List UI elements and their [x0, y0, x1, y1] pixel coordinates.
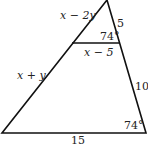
label-lower-left-side: x + y: [17, 69, 46, 82]
label-base: 15: [71, 134, 85, 146]
label-upper-right-side: 5: [117, 17, 124, 30]
label-bottom-angle: 74°: [124, 119, 144, 132]
label-upper-left-side: x − 2y: [60, 9, 96, 22]
triangle-diagram: x − 2y 5 74° x − 5 x + y 10 74° 15: [0, 0, 148, 146]
label-top-angle: 74°: [100, 30, 120, 43]
label-lower-right-side: 10: [135, 80, 148, 93]
label-midsegment: x − 5: [84, 46, 113, 59]
